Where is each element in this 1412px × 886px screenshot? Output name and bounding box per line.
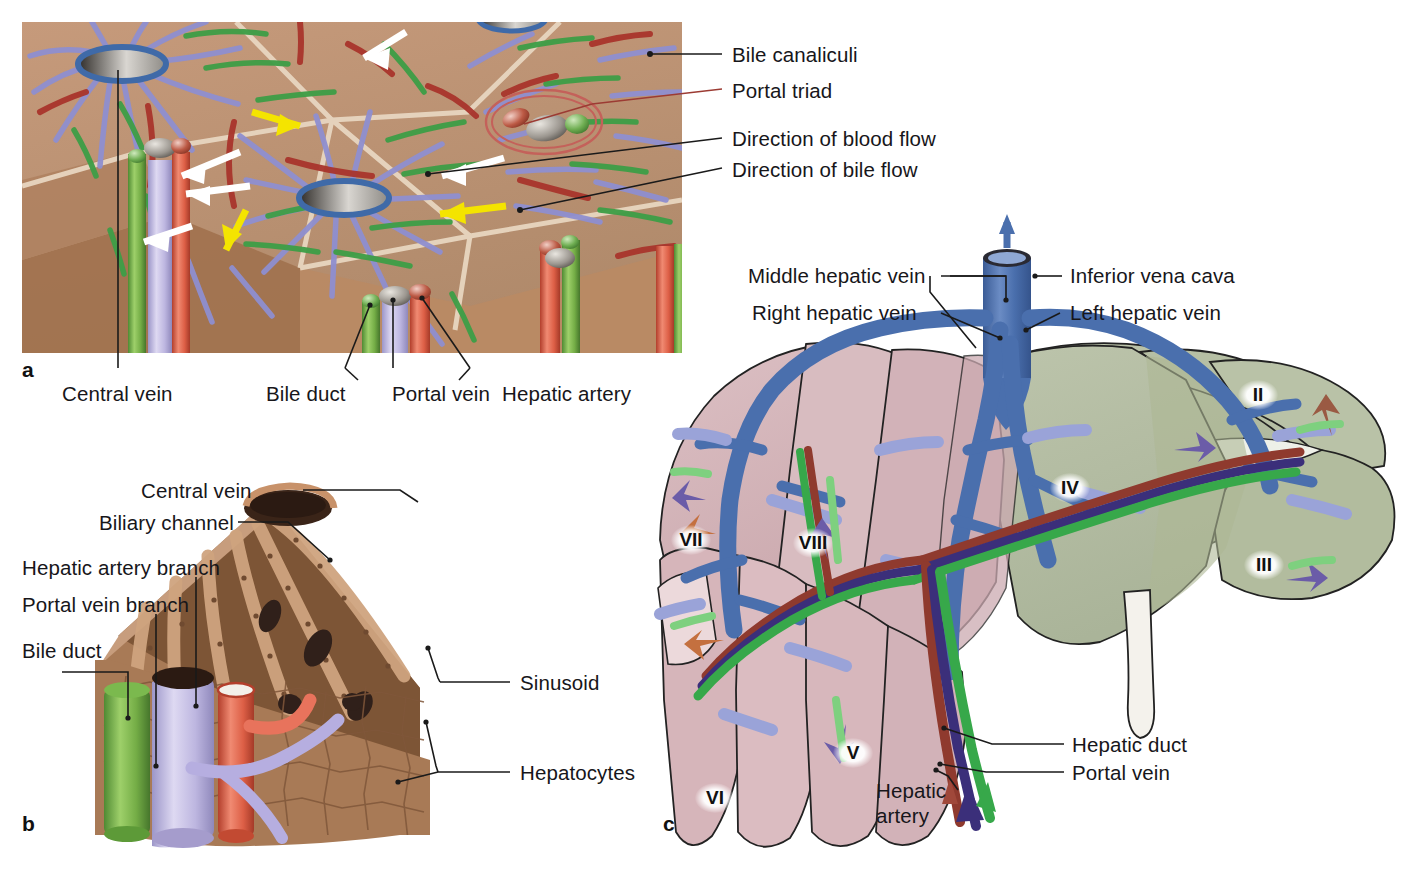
- label-c-hepatic-artery: Hepatic artery: [876, 778, 968, 828]
- panel-letter-b: b: [22, 812, 35, 836]
- label-b-biliary-channel: Biliary channel: [99, 510, 234, 535]
- label-direction-blood-flow: Direction of blood flow: [732, 126, 936, 151]
- panel-a-artwork: [22, 5, 688, 354]
- label-c-portal-vein: Portal vein: [1072, 760, 1170, 785]
- segment-label-v: V: [833, 738, 873, 768]
- segment-label-iv: IV: [1050, 473, 1090, 503]
- panel-b-artwork: [95, 486, 430, 848]
- label-portal-triad: Portal triad: [732, 78, 832, 103]
- label-b-portal-vein-branch: Portal vein branch: [22, 592, 189, 617]
- label-a-portal-vein: Portal vein: [392, 381, 490, 406]
- label-b-bile-duct: Bile duct: [22, 638, 132, 663]
- label-hepatic-duct: Hepatic duct: [1072, 732, 1187, 757]
- label-direction-bile-flow: Direction of bile flow: [732, 157, 918, 182]
- label-right-hepatic-vein: Right hepatic vein: [752, 300, 917, 325]
- panel-letter-c: c: [663, 812, 675, 836]
- label-a-bile-duct: Bile duct: [266, 381, 346, 406]
- segment-label-ii: II: [1238, 380, 1278, 410]
- figure-root: Bile canaliculi Portal triad Direction o…: [0, 0, 1412, 886]
- label-a-hepatic-artery: Hepatic artery: [502, 381, 631, 406]
- label-bile-canaliculi: Bile canaliculi: [732, 42, 858, 67]
- segment-label-iii: III: [1244, 550, 1284, 580]
- label-b-sinusoid: Sinusoid: [520, 670, 599, 695]
- panel-letter-a: a: [22, 358, 34, 382]
- label-inferior-vena-cava: Inferior vena cava: [1070, 263, 1235, 288]
- segment-label-vi: VI: [695, 783, 735, 813]
- label-b-hepatic-artery-branch: Hepatic artery branch: [22, 555, 220, 580]
- segment-label-vii: VII: [671, 525, 711, 555]
- figure-artwork: [0, 0, 1412, 886]
- label-a-central-vein: Central vein: [62, 381, 173, 406]
- label-left-hepatic-vein: Left hepatic vein: [1070, 300, 1221, 325]
- label-b-central-vein: Central vein: [141, 478, 252, 503]
- label-b-hepatocytes: Hepatocytes: [520, 760, 635, 785]
- label-middle-hepatic-vein: Middle hepatic vein: [748, 263, 925, 288]
- central-vein-cavity: [244, 486, 334, 526]
- segment-label-viii: VIII: [793, 528, 833, 558]
